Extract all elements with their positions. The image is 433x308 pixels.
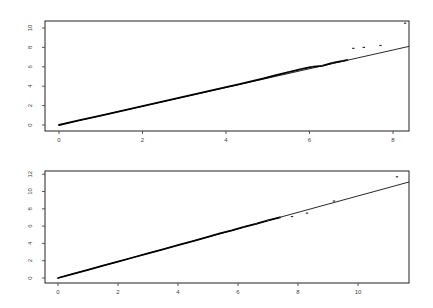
data-point — [331, 62, 333, 63]
y-tick-label: 4 — [27, 241, 33, 245]
data-point — [342, 60, 344, 61]
data-point — [291, 216, 293, 217]
x-tick-label: 0 — [56, 289, 60, 295]
y-tick-label: 0 — [27, 276, 33, 280]
data-point — [321, 65, 323, 66]
data-point — [267, 220, 269, 221]
top-qq-plot: 024680246810 — [27, 21, 409, 143]
x-tick-label: 0 — [57, 137, 61, 143]
data-point — [404, 23, 406, 24]
x-tick-label: 2 — [116, 289, 120, 295]
x-tick-label: 4 — [176, 289, 180, 295]
x-tick-label: 6 — [236, 289, 240, 295]
data-point — [310, 66, 312, 67]
data-point — [306, 213, 308, 214]
y-tick-label: 6 — [27, 64, 33, 68]
data-point — [287, 72, 289, 73]
data-point — [379, 45, 381, 46]
data-point — [346, 59, 348, 60]
y-tick-label: 0 — [27, 123, 33, 127]
data-point — [243, 226, 245, 227]
y-tick-label: 8 — [27, 206, 33, 210]
y-tick-label: 12 — [27, 170, 33, 177]
x-tick-label: 8 — [296, 289, 300, 295]
plot-frame — [45, 21, 409, 131]
data-point — [363, 47, 365, 48]
data-point — [279, 217, 281, 218]
y-tick-label: 10 — [27, 188, 33, 195]
y-tick-label: 10 — [27, 24, 33, 31]
data-point — [333, 200, 335, 201]
x-tick-label: 10 — [355, 289, 362, 295]
y-tick-label: 6 — [27, 224, 33, 228]
x-tick-label: 2 — [141, 137, 145, 143]
data-point — [396, 176, 398, 177]
y-tick-label: 2 — [27, 103, 33, 107]
sample-quantile-curve — [58, 217, 280, 278]
data-point — [300, 69, 302, 70]
qq-plots-figure: 024680246810 0246810024681012 — [0, 0, 433, 308]
y-tick-label: 8 — [27, 45, 33, 49]
y-tick-label: 4 — [27, 84, 33, 88]
x-tick-label: 8 — [391, 137, 395, 143]
x-tick-label: 6 — [308, 137, 312, 143]
bottom-qq-plot: 0246810024681012 — [27, 170, 409, 295]
data-point — [255, 223, 257, 224]
x-tick-label: 4 — [224, 137, 228, 143]
data-point — [352, 48, 354, 49]
y-tick-label: 2 — [27, 258, 33, 262]
